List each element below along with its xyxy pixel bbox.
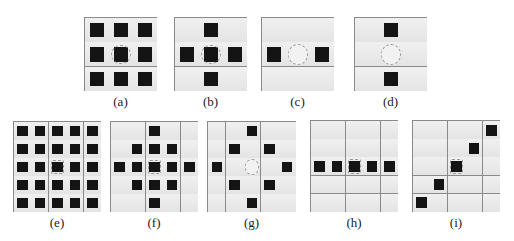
filled-block: [90, 47, 104, 62]
filled-block: [212, 162, 223, 173]
grid-cell: [286, 18, 311, 43]
grid-cell: [208, 140, 226, 159]
grid-cell: [226, 122, 244, 141]
panel-label-e: (e): [37, 215, 77, 231]
filled-block: [87, 144, 97, 155]
grid-cell: [111, 176, 129, 195]
filled-block: [70, 126, 80, 137]
filled-block: [267, 47, 281, 62]
filled-block: [167, 162, 177, 173]
grid-cell: [448, 176, 466, 195]
grid-cell: [286, 67, 311, 91]
panel-label-b: (b): [191, 94, 231, 110]
grid-cell: [328, 139, 346, 158]
filled-block: [70, 198, 80, 209]
center-pixel-marker: [381, 44, 401, 64]
grid-cell: [181, 176, 198, 195]
filled-block: [247, 198, 258, 209]
grid-cell: [465, 121, 483, 140]
filled-block: [87, 126, 97, 137]
grid-panel-e: [13, 121, 101, 212]
filled-block: [70, 144, 80, 155]
grid-cell: [163, 122, 181, 141]
filled-block: [114, 23, 128, 38]
filled-block: [52, 126, 62, 137]
grid-cell: [346, 139, 364, 158]
grid-cell: [243, 176, 261, 195]
filled-block: [315, 47, 329, 62]
filled-block: [132, 144, 142, 155]
grid-cell: [111, 140, 129, 159]
grid-cell: [208, 194, 226, 212]
center-pixel-marker: [111, 45, 130, 64]
filled-block: [384, 23, 398, 38]
filled-block: [35, 162, 45, 173]
center-pixel-marker: [450, 159, 464, 174]
filled-block: [132, 162, 142, 173]
panel-label-i: (i): [436, 215, 476, 231]
grid-cell: [128, 194, 146, 212]
filled-block: [204, 23, 218, 38]
grid-cell: [328, 121, 346, 140]
grid-cell: [448, 121, 466, 140]
grid-cell: [208, 122, 226, 141]
grid-cell: [413, 157, 431, 176]
grid-cell: [223, 67, 247, 91]
filled-block: [138, 23, 152, 38]
filled-block: [70, 162, 80, 173]
grid-cell: [413, 139, 431, 158]
grid-cell: [261, 122, 279, 141]
grid-cell: [430, 194, 448, 212]
grid-panel-c: [261, 17, 334, 91]
grid-cell: [181, 194, 198, 212]
filled-block: [70, 180, 80, 191]
grid-cell: [226, 194, 244, 212]
filled-block: [384, 72, 398, 87]
filled-block: [229, 144, 240, 155]
filled-block: [87, 198, 97, 209]
grid-cell: [381, 139, 398, 158]
grid-cell: [278, 194, 296, 212]
grid-panel-f: [110, 121, 198, 212]
grid-cell: [278, 176, 296, 195]
center-pixel-marker: [348, 159, 362, 174]
grid-cell: [381, 194, 398, 212]
filled-block: [52, 180, 62, 191]
grid-cell: [465, 194, 483, 212]
grid-cell: [430, 157, 448, 176]
grid-cell: [381, 176, 398, 195]
filled-block: [138, 47, 152, 62]
grid-cell: [111, 122, 129, 141]
grid-cell: [430, 139, 448, 158]
filled-block: [17, 162, 27, 173]
grid-cell: [430, 121, 448, 140]
filled-block: [384, 161, 394, 172]
filled-block: [132, 180, 142, 191]
filled-block: [35, 144, 45, 155]
grid-cell: [346, 121, 364, 140]
filled-block: [167, 180, 177, 191]
grid-cell: [310, 67, 334, 91]
grid-cell: [381, 121, 398, 140]
panel-label-h: (h): [334, 215, 374, 231]
grid-panel-h: [310, 120, 398, 212]
filled-block: [180, 47, 194, 62]
filled-block: [229, 180, 240, 191]
filled-block: [149, 126, 159, 137]
filled-block: [367, 161, 377, 172]
grid-cell: [355, 67, 380, 91]
grid-cell: [262, 67, 287, 91]
grid-cell: [363, 121, 381, 140]
grid-cell: [310, 18, 334, 43]
grid-cell: [226, 158, 244, 177]
filled-block: [35, 126, 45, 137]
filled-block: [184, 162, 194, 173]
grid-cell: [483, 194, 500, 212]
grid-cell: [181, 140, 198, 159]
grid-cell: [403, 18, 427, 43]
grid-cell: [311, 121, 329, 140]
grid-panel-g: [207, 121, 296, 212]
grid-cell: [261, 158, 279, 177]
grid-cell: [363, 176, 381, 195]
filled-block: [486, 125, 496, 136]
